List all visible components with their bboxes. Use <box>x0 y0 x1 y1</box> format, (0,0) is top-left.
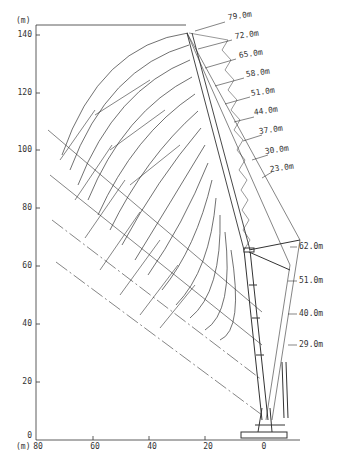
jib-struts <box>249 240 300 270</box>
boom-length-label: 51.0m <box>299 277 323 285</box>
boom-length-label: 29.0m <box>299 341 323 349</box>
x-ticks <box>93 436 205 440</box>
y-tick-label: 140 <box>4 31 32 39</box>
x-tick-label: 20 <box>198 443 218 451</box>
boom-length-label: 40.0m <box>299 310 323 318</box>
y-tick-label: 60 <box>4 262 32 270</box>
y-axis-unit-label: (m) <box>16 17 30 25</box>
y-tick-label: 120 <box>4 89 32 97</box>
boom-length-label: 62.0m <box>299 243 323 251</box>
luffing-jib <box>187 33 250 250</box>
crane-range-diagram: (m) 140 120 100 80 60 40 20 0 (m) 80 60 … <box>0 0 338 464</box>
range-chart-drawing <box>0 0 338 464</box>
y-ticks <box>36 35 40 382</box>
back-mast <box>282 362 288 418</box>
jib-label-leaders <box>195 22 272 178</box>
boom-label-leaders <box>288 247 297 345</box>
y-tick-label: 0 <box>4 432 32 440</box>
y-tick-label: 20 <box>4 378 32 386</box>
x-tick-label: 80 <box>28 443 48 451</box>
x-tick-label: 0 <box>254 443 274 451</box>
crane-carrier <box>241 408 287 438</box>
angle-rays <box>48 130 262 415</box>
grid-crossings <box>60 80 195 328</box>
y-tick-label: 80 <box>4 204 32 212</box>
y-tick-label: 100 <box>4 146 32 154</box>
x-tick-label: 60 <box>85 443 105 451</box>
x-tick-label: 40 <box>142 443 162 451</box>
y-tick-label: 40 <box>4 320 32 328</box>
main-boom <box>244 248 268 420</box>
